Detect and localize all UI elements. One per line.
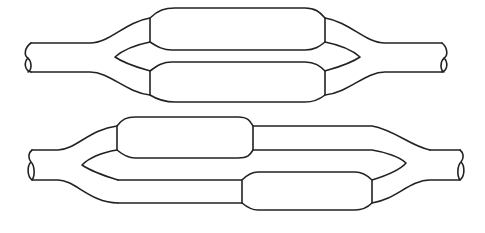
top-upper-chamber bbox=[150, 8, 325, 50]
bottom-mid-tube bbox=[118, 180, 242, 203]
bottom-right-pipe-end bbox=[458, 150, 464, 180]
bottom-lower-chamber bbox=[242, 172, 372, 210]
diagram-canvas bbox=[0, 0, 485, 233]
top-manifold bbox=[25, 8, 446, 102]
top-lower-chamber bbox=[150, 62, 325, 102]
top-left-pipe bbox=[31, 18, 150, 95]
bottom-left-fork bbox=[82, 150, 118, 180]
bottom-left-pipe bbox=[32, 126, 118, 203]
bottom-right-pipe bbox=[372, 150, 460, 203]
top-right-pipe-end bbox=[441, 43, 447, 72]
bottom-manifold bbox=[28, 117, 464, 210]
top-right-pipe bbox=[325, 18, 442, 95]
top-left-fork bbox=[115, 42, 150, 71]
bottom-left-pipe-end bbox=[28, 150, 34, 180]
top-left-pipe-end bbox=[25, 43, 31, 72]
top-right-fork bbox=[325, 42, 360, 71]
bottom-upper-chamber bbox=[117, 117, 253, 158]
